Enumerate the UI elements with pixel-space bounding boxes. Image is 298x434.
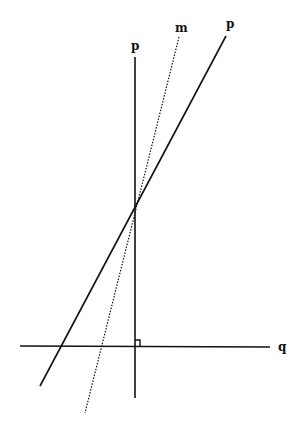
line-p-slanted <box>40 36 226 386</box>
label-p-vertical: p <box>131 40 139 52</box>
diagram-lines <box>0 0 298 434</box>
diagram-canvas: p m p q <box>0 0 298 434</box>
label-q: q <box>278 341 286 353</box>
label-m: m <box>175 22 188 34</box>
line-m-dotted <box>85 37 179 413</box>
line-q <box>20 346 270 347</box>
label-p-slanted: p <box>226 18 234 30</box>
